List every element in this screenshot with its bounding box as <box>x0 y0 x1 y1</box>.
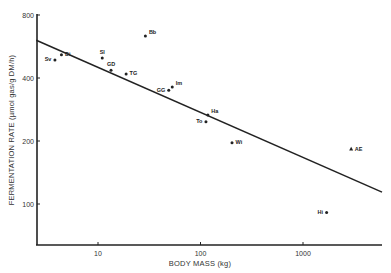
circle-marker-icon <box>144 34 147 37</box>
y-tick-label: 800 <box>22 12 34 19</box>
circle-marker-icon <box>167 89 170 92</box>
data-point-gg: GG <box>157 87 171 93</box>
y-tick-label: 200 <box>22 138 34 145</box>
point-label: TG <box>130 70 138 76</box>
y-tick-label: 100 <box>22 201 34 208</box>
data-point-gd: GD <box>107 61 115 72</box>
data-point-ha: Ha <box>206 108 219 117</box>
x-tick-label: 10 <box>94 250 102 257</box>
point-label: GD <box>107 61 115 67</box>
data-point-sl: Sl <box>100 49 106 60</box>
point-label: AE <box>355 146 363 152</box>
circle-marker-icon <box>60 53 63 56</box>
y-tick-label: 400 <box>22 75 34 82</box>
point-label: Bb <box>149 29 157 35</box>
point-label: Im <box>176 80 183 86</box>
x-axis-title: BODY MASS (kg) <box>169 259 232 268</box>
x-tick-label: 100 <box>195 250 207 257</box>
point-label: Sl <box>100 49 106 55</box>
circle-marker-icon <box>125 72 128 75</box>
scatter-chart: 100200400800 101001000 SvDiSlBbGDTGGGImH… <box>0 0 391 273</box>
point-label: Ha <box>211 108 219 114</box>
circle-marker-icon <box>101 56 104 59</box>
circle-marker-icon <box>204 120 207 123</box>
point-label: To <box>196 118 203 124</box>
data-point-di: Di <box>60 51 71 57</box>
point-label: GG <box>157 87 166 93</box>
data-point-to: To <box>196 118 207 124</box>
regression-line <box>36 40 382 192</box>
data-point-hi: Hi <box>318 209 329 215</box>
circle-marker-icon <box>53 58 56 61</box>
circle-marker-icon <box>110 69 113 72</box>
circle-marker-icon <box>325 211 328 214</box>
point-label: Hi <box>318 209 324 215</box>
circle-marker-icon <box>171 86 174 89</box>
point-label: Sv <box>45 56 53 62</box>
data-point-tg: TG <box>125 70 138 76</box>
data-point-bb: Bb <box>144 29 157 38</box>
data-point-ae: AE <box>349 146 362 152</box>
point-label: Di <box>65 51 71 57</box>
data-point-wi: Wi <box>231 139 243 145</box>
data-point-im: Im <box>171 80 183 89</box>
data-points: SvDiSlBbGDTGGGImHaToWiAEHi <box>45 29 363 215</box>
y-axis-title: FERMENTATION RATE (µmol gas/g DM/h) <box>7 54 16 205</box>
circle-marker-icon <box>206 114 209 117</box>
triangle-marker-icon <box>349 147 353 151</box>
data-point-sv: Sv <box>45 56 57 62</box>
circle-marker-icon <box>231 141 234 144</box>
point-label: Wi <box>236 139 243 145</box>
axes <box>36 14 382 245</box>
x-tick-label: 1000 <box>295 250 311 257</box>
